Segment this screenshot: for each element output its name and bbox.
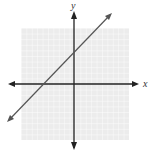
y-axis-arrow-bottom	[71, 142, 77, 150]
x-axis-label: x	[143, 78, 147, 89]
x-axis-arrow-left	[8, 81, 15, 87]
y-axis-arrow-top	[71, 11, 77, 19]
x-axis-arrow-right	[132, 81, 139, 87]
coordinate-plane	[0, 0, 150, 152]
y-axis-label: y	[71, 0, 75, 11]
